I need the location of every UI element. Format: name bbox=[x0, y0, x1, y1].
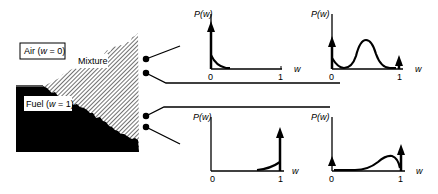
svg-text:0: 0 bbox=[329, 72, 334, 82]
svg-text:0: 0 bbox=[208, 72, 213, 82]
pdf-plot-mixing-layer: P(w) 0 1 w bbox=[311, 9, 422, 82]
probe-connectors bbox=[143, 46, 340, 144]
svg-text:0: 0 bbox=[210, 174, 215, 184]
pdf-plot-air-side: P(w) 0 1 w bbox=[194, 9, 301, 82]
pdf-plot-fuel-side: P(w) 0 1 w bbox=[193, 112, 299, 184]
mixing-pdf-diagram: Air (w = 0) Mixture Fuel (w = 1) P(w) 0 … bbox=[0, 0, 438, 194]
air-label: Air (w = 0) bbox=[24, 46, 65, 56]
delta-arrow-0 bbox=[328, 156, 336, 166]
svg-text:1: 1 bbox=[278, 72, 283, 82]
svg-text:w: w bbox=[415, 64, 422, 74]
svg-text:P(w): P(w) bbox=[193, 112, 212, 122]
svg-text:1: 1 bbox=[398, 174, 403, 184]
svg-text:0: 0 bbox=[329, 174, 334, 184]
y-axis-label: P(w) bbox=[194, 9, 213, 19]
svg-text:w: w bbox=[294, 64, 301, 74]
fuel-label: Fuel (w = 1) bbox=[26, 99, 74, 109]
svg-text:1: 1 bbox=[278, 174, 283, 184]
svg-text:w: w bbox=[416, 166, 423, 176]
pdf-plot-fuel-mixing: P(w) 0 1 w bbox=[311, 112, 423, 184]
svg-text:P(w): P(w) bbox=[311, 9, 330, 19]
svg-text:1: 1 bbox=[397, 72, 402, 82]
mixture-label: Mixture bbox=[78, 56, 108, 66]
svg-text:P(w): P(w) bbox=[311, 112, 330, 122]
mixing-layer-illustration: Air (w = 0) Mixture Fuel (w = 1) bbox=[16, 33, 139, 152]
svg-text:w: w bbox=[292, 166, 299, 176]
